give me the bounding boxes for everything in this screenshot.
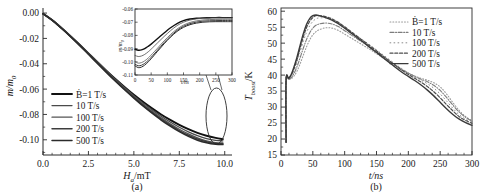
inset-y-tick-label: -0.10 bbox=[122, 59, 133, 65]
panel-b-y-axis-title: Tboost/K bbox=[243, 70, 256, 100]
inset-x-tick-label: 250 bbox=[212, 77, 220, 83]
panel-b-y-tick-label: 45 bbox=[268, 55, 278, 65]
panel-a-x-tick-label: 7.5 bbox=[173, 159, 185, 169]
panel-b-legend-label: 100 T/s bbox=[412, 38, 440, 48]
panel-b-y-tick-label: 60 bbox=[268, 7, 278, 17]
inset-y-tick-label: -0.11 bbox=[122, 72, 133, 78]
panel-a-legend-label: 500 T/s bbox=[76, 136, 104, 146]
panel-a-y-tick-label: -0.02 bbox=[19, 34, 39, 44]
panel-b-legend-label: 200 T/s bbox=[412, 49, 440, 59]
callout-ellipse-icon bbox=[206, 88, 227, 144]
panel-a-y-axis-title: m/m0 bbox=[4, 75, 18, 96]
panel-a-legend-label: 200 T/s bbox=[76, 124, 104, 134]
inset-x-tick-label: 100 bbox=[163, 77, 171, 83]
panel-a-caption: (a) bbox=[131, 181, 142, 192]
figure-container: 0.00-0.02-0.04-0.06-0.08-0.10 0.02.55.07… bbox=[0, 0, 485, 192]
panel-a-y-tick-label: -0.06 bbox=[19, 85, 39, 95]
panel-b-x-tick-label: 100 bbox=[338, 159, 353, 169]
panel-b-x-ticks: 050100150200250300 bbox=[279, 151, 480, 169]
inset-x-tick-label: 300 bbox=[228, 77, 236, 83]
panel-a-x-tick-label: 10.0 bbox=[216, 159, 233, 169]
panel-b-curves bbox=[286, 15, 472, 142]
panel-b-legend-label: Ḃ=1 T/s bbox=[412, 16, 443, 27]
inset-x-tick-label: 200 bbox=[196, 77, 204, 83]
panel-a-y-tick-label: -0.04 bbox=[19, 59, 39, 69]
inset-x-tick-label: 50 bbox=[149, 77, 155, 83]
inset-y-tick-label: -0.07 bbox=[122, 19, 133, 25]
panel-b-frame bbox=[281, 8, 472, 155]
panel-b-x-tick-label: 200 bbox=[401, 159, 416, 169]
panel-a-y-tick-label: -0.10 bbox=[19, 135, 39, 145]
inset-y-tick-label: -0.06 bbox=[122, 6, 133, 12]
panel-b-x-tick-label: 250 bbox=[433, 159, 448, 169]
panel-b-y-tick-label: 50 bbox=[268, 39, 278, 49]
figure-svg: 0.00-0.02-0.04-0.06-0.08-0.10 0.02.55.07… bbox=[0, 0, 485, 192]
panel-b-y-tick-label: 35 bbox=[268, 86, 278, 96]
panel-b-x-axis-title: t/ns bbox=[369, 170, 384, 181]
panel-b-curve bbox=[286, 18, 472, 142]
panel-b-caption: (b) bbox=[370, 181, 382, 192]
panel-b-y-tick-label: 30 bbox=[268, 102, 278, 112]
panel-b: 15202530354045505560 050100150200250300 … bbox=[243, 7, 479, 192]
svg-text:Tboost/K: Tboost/K bbox=[243, 70, 256, 100]
panel-b-x-tick-label: 0 bbox=[279, 159, 284, 169]
panel-a-legend: Ḃ=1 T/s10 T/s100 T/s200 T/s500 T/s bbox=[52, 89, 107, 146]
panel-a-y-tick-label: 0.00 bbox=[22, 8, 39, 18]
inset-y-tick-label: -0.09 bbox=[122, 46, 133, 52]
panel-b-x-tick-label: 50 bbox=[308, 159, 318, 169]
panel-a-legend-label: Ḃ=1 T/s bbox=[76, 89, 107, 100]
panel-b-x-tick-label: 150 bbox=[369, 159, 384, 169]
panel-a-legend-label: 10 T/s bbox=[76, 101, 100, 111]
inset-y-tick-label: -0.08 bbox=[122, 32, 133, 38]
panel-b-legend-label: 10 T/s bbox=[412, 28, 436, 38]
panel-a-inset: -0.06-0.07-0.08-0.09-0.10-0.11 050100150… bbox=[117, 6, 236, 85]
panel-b-curve bbox=[286, 15, 472, 142]
panel-b-curve bbox=[286, 23, 472, 142]
panel-a-x-tick-label: 5.0 bbox=[128, 159, 140, 169]
callout-leader-left bbox=[206, 75, 211, 90]
panel-a-x-ticks: 0.02.55.07.510.0 bbox=[37, 151, 233, 169]
panel-b-y-tick-label: 55 bbox=[268, 23, 278, 33]
panel-b-y-tick-label: 25 bbox=[268, 118, 278, 128]
panel-a-legend-label: 100 T/s bbox=[76, 113, 104, 123]
panel-b-y-ticks: 15202530354045505560 bbox=[268, 7, 286, 161]
panel-b-x-tick-label: 300 bbox=[465, 159, 480, 169]
panel-b-y-tick-label: 40 bbox=[268, 71, 278, 81]
panel-b-curve bbox=[286, 28, 472, 143]
inset-frame bbox=[135, 9, 232, 75]
panel-a-x-tick-label: 2.5 bbox=[82, 159, 94, 169]
panel-a-y-tick-label: -0.08 bbox=[19, 110, 39, 120]
panel-b-legend: Ḃ=1 T/s10 T/s100 T/s200 T/s500 T/s bbox=[390, 16, 443, 69]
panel-b-y-tick-label: 15 bbox=[268, 150, 278, 160]
inset-x-tick-label: 0 bbox=[134, 77, 137, 83]
panel-b-y-tick-label: 20 bbox=[268, 134, 278, 144]
panel-a-x-tick-label: 0.0 bbox=[37, 159, 49, 169]
panel-b-legend-label: 500 T/s bbox=[412, 59, 440, 69]
svg-text:m/m0: m/m0 bbox=[4, 75, 18, 96]
inset-x-axis-title: t/ns bbox=[181, 79, 189, 85]
